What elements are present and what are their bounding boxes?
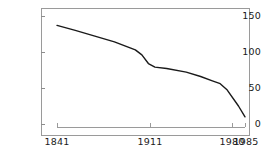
chart-figure: 150 100 50 0 1841 1911 1980 1985	[0, 0, 261, 158]
data-line-svg	[0, 0, 261, 158]
data-line-series-1	[57, 25, 245, 116]
